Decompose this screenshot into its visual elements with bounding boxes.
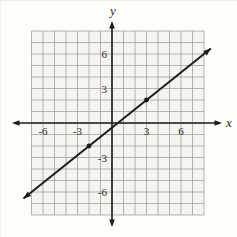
y-axis-bottom-arrow [109, 220, 115, 228]
y-tick-label: -6 [98, 186, 108, 198]
plotted-point [87, 144, 92, 149]
y-axis-top-arrow [109, 21, 115, 29]
y-tick-label: 6 [102, 48, 108, 60]
y-tick-label: -3 [98, 152, 108, 164]
x-axis-right-arrow [215, 120, 223, 126]
plotted-point [144, 98, 149, 103]
x-tick-label: 3 [144, 125, 150, 137]
coordinate-plane-graph: xy-6-33663-3-6 [0, 0, 237, 237]
x-axis-label: x [225, 115, 232, 130]
x-tick-label: 6 [178, 125, 184, 137]
x-axis-left-arrow [12, 120, 20, 126]
y-tick-label: 3 [102, 83, 108, 95]
y-axis-label: y [108, 3, 116, 18]
x-tick-label: -3 [73, 125, 83, 137]
x-tick-label: -6 [38, 125, 48, 137]
graph-figure: xy-6-33663-3-6 [0, 0, 237, 237]
